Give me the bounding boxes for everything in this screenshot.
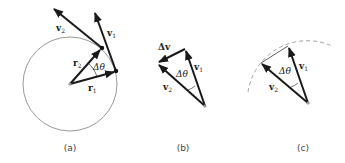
label-v1: v1 — [106, 28, 116, 39]
label-delta-theta: Δθ — [175, 69, 188, 79]
label-v2: v2 — [162, 82, 172, 93]
panel-b: Δv v1 v2 Δθ (b) — [158, 42, 207, 153]
origin-dot — [203, 104, 206, 107]
label-r1: r1 — [88, 83, 97, 94]
label-r2: r2 — [73, 58, 82, 69]
origin-dot — [306, 101, 309, 104]
label-delta-v: Δv — [158, 42, 171, 52]
caption-c: (c) — [297, 143, 309, 153]
label-v1: v1 — [298, 61, 308, 72]
caption-b: (b) — [177, 143, 190, 153]
angle-arc — [188, 86, 195, 90]
angle-arc — [291, 83, 298, 87]
panel-c: v1 v2 Δθ (c) — [248, 41, 332, 153]
label-v2: v2 — [268, 82, 278, 93]
label-v2: v2 — [55, 23, 65, 34]
caption-a: (a) — [64, 143, 77, 153]
label-delta-theta: Δθ — [92, 62, 105, 72]
origin-dot — [68, 82, 71, 85]
position-dot-1 — [114, 69, 118, 73]
label-delta-theta: Δθ — [278, 66, 291, 76]
chord-line — [261, 46, 288, 63]
label-v1: v1 — [193, 62, 203, 73]
panel-a: v2 v1 r2 r1 Δθ (a) — [23, 9, 118, 153]
circular-motion-diagram: v2 v1 r2 r1 Δθ (a) Δv v1 v2 Δθ (b) v1 v2… — [0, 0, 345, 163]
position-dot-2 — [100, 46, 104, 50]
